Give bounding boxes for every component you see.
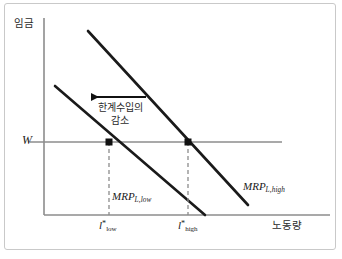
figure-root: 임금 노동량 W MRPL,low MRPL,high l*low l*high… <box>0 0 342 259</box>
mrp-low-base: MRP <box>112 190 135 202</box>
mrp-high-subscript: L,high <box>266 186 285 194</box>
y-axis-title: 임금 <box>14 17 34 29</box>
mrp-high-base: MRP <box>243 180 266 192</box>
mrp-high-curve-label: MRPL,high <box>243 180 285 194</box>
shift-annotation-text: 한계수입의 감소 <box>77 101 163 127</box>
mrp-low-curve-label: MRPL,low <box>112 190 151 204</box>
x-axis-title: 노동량 <box>272 219 302 231</box>
equilibrium-point-low <box>106 139 113 146</box>
tick-high-subscript: high <box>185 225 198 233</box>
shift-annotation-line2: 감소 <box>77 114 163 127</box>
mrp-low-subscript: L,low <box>135 196 152 204</box>
equilibrium-point-high <box>185 139 192 146</box>
shift-annotation-line1: 한계수입의 <box>77 101 163 114</box>
x-tick-label-high: l*high <box>178 219 198 234</box>
x-tick-label-low: l*low <box>99 219 117 234</box>
tick-low-subscript: low <box>106 225 117 233</box>
wage-axis-tick-label: W <box>22 134 32 147</box>
